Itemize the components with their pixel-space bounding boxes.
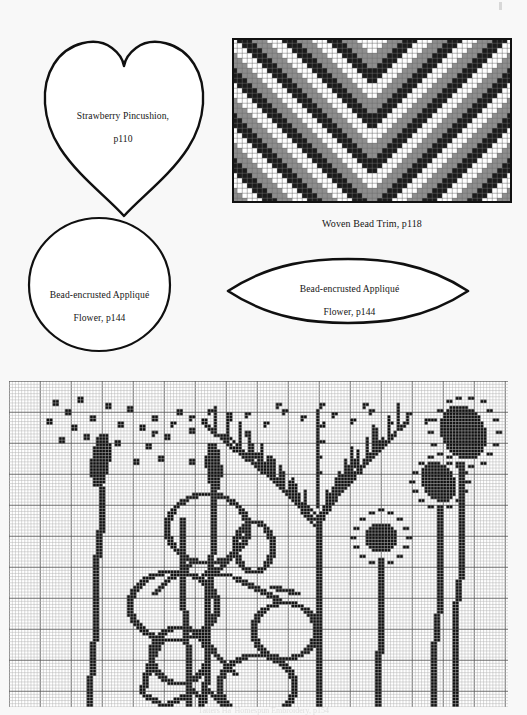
template-circle-label: Bead-encrusted Appliqué Flower, p144	[22, 277, 177, 323]
template-leaf-label-line1: Bead-encrusted Appliqué	[300, 283, 400, 294]
template-circle-label-line1: Bead-encrusted Appliqué	[50, 289, 150, 300]
template-circle-label-line2: Flower, p144	[74, 312, 126, 323]
woven-bead-trim-caption-text: Woven Bead Trim, p118	[322, 218, 422, 229]
embroidery-chart-canvas	[9, 381, 508, 707]
template-leaf-label-line2: Flower, p144	[324, 306, 376, 317]
craft-book-page: Strawberry Pincushion, p110 Bead-encrust…	[0, 0, 527, 715]
template-leaf-label: Bead-encrusted Appliqué Flower, p144	[272, 271, 427, 317]
woven-bead-trim-caption: Woven Bead Trim, p118	[272, 206, 472, 229]
template-heart-label-line1: Strawberry Pincushion,	[77, 110, 169, 121]
embroidery-chart	[9, 381, 508, 707]
woven-bead-trim-canvas	[232, 38, 512, 203]
template-heart-label-line2: p110	[113, 133, 132, 144]
template-heart-label: Strawberry Pincushion, p110	[48, 98, 198, 144]
woven-bead-trim-chart	[232, 38, 512, 203]
page-bottom-caption: Tatters Ha' Homespun Embroidery, p154	[0, 706, 527, 715]
page-corner-mark	[499, 2, 502, 10]
